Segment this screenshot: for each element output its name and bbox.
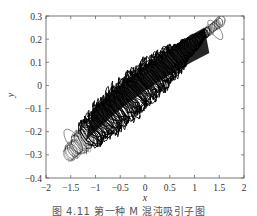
x-tick-label: 2 <box>242 183 247 193</box>
y-tick-label: 0.3 <box>30 12 42 22</box>
y-tick-labels: 0.30.20.10−0.1−0.2−0.3−0.4 <box>25 12 42 184</box>
y-tick-label: −0.3 <box>25 150 42 160</box>
x-axis-label: x <box>142 192 148 203</box>
figure-caption: 图 4.11 第一种 M 混沌吸引子图 <box>0 203 257 216</box>
x-tick-label: −1 <box>90 183 100 193</box>
y-tick-label: 0.1 <box>30 58 42 68</box>
x-tick-label: −2 <box>41 183 51 193</box>
attractor-chart: −2−1.5−1−0.500.511.52 0.30.20.10−0.1−0.2… <box>0 0 257 216</box>
x-tick-label: 1 <box>192 183 197 193</box>
x-tick-label: −0.5 <box>112 183 129 193</box>
x-tick-label: 1.5 <box>213 183 225 193</box>
y-tick-label: 0.2 <box>30 35 42 45</box>
y-tick-label: −0.1 <box>25 104 42 114</box>
y-tick-label: −0.4 <box>25 174 42 184</box>
y-tick-label: −0.2 <box>25 127 42 137</box>
y-axis-label: y <box>5 92 16 98</box>
x-tick-label: −1.5 <box>62 183 79 193</box>
y-tick-label: 0 <box>37 81 42 91</box>
x-tick-label: 0.5 <box>164 183 176 193</box>
